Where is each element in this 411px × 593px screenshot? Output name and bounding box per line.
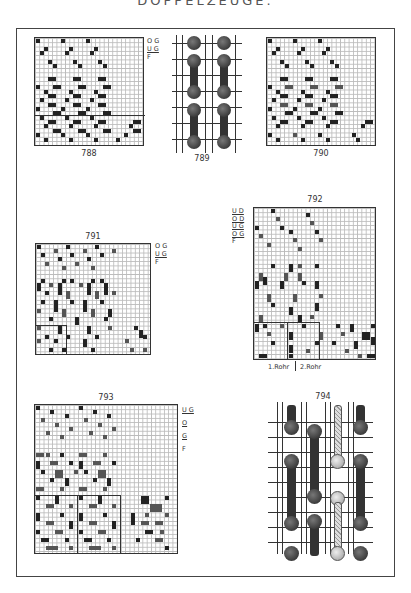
figure-793: 793 U G O G F	[34, 393, 194, 553]
rohr-1-label: 1.Rohr	[268, 363, 289, 371]
figure-number: 788	[34, 149, 144, 158]
light-knot-icon	[330, 454, 345, 469]
knot-icon	[187, 36, 201, 50]
weave-grid	[34, 404, 178, 554]
weave-grid	[266, 37, 376, 146]
figure-791: 791 O G U G F	[35, 232, 185, 367]
page-header: DOPPELZEUGE.	[0, 0, 411, 8]
weave-grid	[35, 243, 151, 355]
figure-number: 789	[172, 154, 232, 163]
rohr-2-label: 2.Rohr	[300, 363, 321, 371]
legend: O G U G F	[155, 242, 167, 266]
weave-grid	[34, 37, 144, 146]
weave-grid	[253, 207, 376, 360]
legend: O G U G F	[147, 37, 159, 61]
figure-number: 792	[254, 195, 376, 204]
figure-number: 794	[268, 392, 378, 401]
knot-icon	[284, 420, 299, 435]
figure-number: 791	[35, 232, 151, 241]
figure-number: 790	[266, 149, 376, 158]
figure-788: O G U G F 788	[34, 37, 184, 167]
figure-790: 790	[266, 37, 378, 167]
figure-794: 794	[268, 392, 378, 562]
figure-792: 792 U D O D U G O G F 1.Rohr 2.Rohr	[232, 195, 382, 375]
figure-number: 793	[34, 393, 178, 402]
legend: U D O D U G O G F	[232, 208, 244, 246]
figure-789: 789	[172, 35, 242, 165]
legend: U G O G F	[182, 404, 194, 456]
